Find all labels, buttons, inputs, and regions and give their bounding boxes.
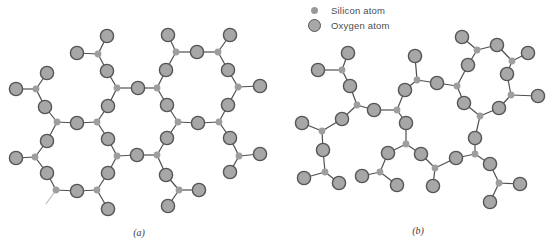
legend-item-silicon: Silicon atom: [306, 4, 390, 17]
oxygen-atom: [9, 82, 22, 95]
silicon-atom-swatch-icon: [311, 7, 318, 14]
oxygen-atom: [40, 166, 53, 179]
oxygen-atom: [490, 38, 503, 51]
oxygen-atom: [38, 100, 51, 113]
oxygen-atom: [159, 63, 172, 76]
caption-panel-b: (b): [412, 225, 424, 236]
silicon-atom: [176, 187, 183, 194]
oxygen-atom: [311, 63, 324, 76]
oxygen-atom: [223, 165, 236, 178]
silicon-atom: [474, 47, 481, 54]
silicon-atom: [54, 119, 61, 126]
silicon-atom: [394, 107, 401, 114]
oxygen-atom: [223, 28, 236, 41]
oxygen-atom: [449, 151, 462, 164]
oxygen-atom: [492, 101, 505, 114]
legend-label-silicon: Silicon atom: [331, 5, 385, 16]
silicon-atom: [432, 165, 439, 172]
oxygen-atom: [191, 116, 204, 129]
legend-item-oxygen: Oxygen atom: [306, 19, 390, 32]
oxygen-atom: [161, 199, 174, 212]
oxygen-atom: [221, 98, 234, 111]
oxygen-atom: [414, 147, 427, 160]
oxygen-atom: [316, 143, 329, 156]
oxygen-atom: [130, 148, 143, 161]
oxygen-atom: [398, 83, 411, 96]
silicon-atom: [94, 119, 101, 126]
oxygen-atom: [355, 169, 368, 182]
oxygen-atom: [100, 29, 113, 42]
silicon-atom: [339, 67, 346, 74]
legend: Silicon atom Oxygen atom: [306, 4, 390, 32]
silicon-atom: [377, 169, 384, 176]
oxygen-atom: [390, 178, 403, 191]
atomic-structure-canvas: [0, 0, 552, 246]
oxygen-atom: [500, 67, 513, 80]
oxygen-atom: [457, 96, 470, 109]
oxygen-atom: [297, 171, 310, 184]
oxygen-atom: [40, 134, 53, 147]
oxygen-atom: [483, 157, 496, 170]
oxygen-atom-swatch-icon: [308, 19, 321, 32]
silicon-atom: [322, 169, 329, 176]
oxygen-atom: [430, 76, 443, 89]
silicon-atom: [403, 141, 410, 148]
oxygen-atom: [223, 131, 236, 144]
oxygen-atom: [221, 63, 234, 76]
silicon-atom: [216, 119, 223, 126]
silicon-atom: [319, 128, 326, 135]
panel-a: [9, 28, 266, 215]
silicon-atom: [508, 92, 515, 99]
figure-sio2-structures: Silicon atom Oxygen atom (a) (b): [0, 0, 552, 246]
silicon-atom: [154, 85, 161, 92]
oxygen-atom: [9, 151, 22, 164]
oxygen-atom: [521, 46, 534, 59]
oxygen-atom: [190, 45, 203, 58]
silicon-atom: [477, 113, 484, 120]
oxygen-atom: [131, 81, 144, 94]
oxygen-atom: [468, 131, 481, 144]
caption-panel-a: (a): [133, 227, 145, 238]
oxygen-atom: [399, 116, 412, 129]
oxygen-atom: [40, 66, 53, 79]
silicon-atom: [154, 152, 161, 159]
oxygen-atom: [461, 58, 474, 71]
panel-b: [295, 30, 544, 208]
oxygen-atom: [161, 28, 174, 41]
silicon-atom: [175, 119, 182, 126]
oxygen-atom: [332, 176, 345, 189]
silicon-atom: [472, 151, 479, 158]
oxygen-atom: [381, 146, 394, 159]
silicon-atom: [33, 86, 40, 93]
oxygen-atom: [335, 112, 348, 125]
oxygen-atom: [101, 166, 114, 179]
silicon-atom: [414, 77, 421, 84]
silicon-atom: [173, 49, 180, 56]
oxygen-atom: [101, 99, 114, 112]
oxygen-atom: [455, 30, 468, 43]
oxygen-atom: [343, 79, 356, 92]
oxygen-atom: [253, 79, 266, 92]
oxygen-atom: [367, 103, 380, 116]
oxygen-atom: [100, 64, 113, 77]
silicon-atom: [32, 154, 39, 161]
oxygen-atom: [70, 184, 83, 197]
oxygen-atom: [101, 202, 114, 215]
silicon-atom: [235, 84, 242, 91]
oxygen-atom: [408, 49, 421, 62]
silicon-atom: [95, 51, 102, 58]
silicon-atom: [496, 180, 503, 187]
silicon-atom: [354, 102, 361, 109]
silicon-atom: [454, 83, 461, 90]
oxygen-atom: [483, 195, 496, 208]
oxygen-atom: [160, 98, 173, 111]
oxygen-atom: [192, 183, 205, 196]
legend-label-oxygen: Oxygen atom: [331, 20, 390, 31]
oxygen-atom: [513, 177, 526, 190]
oxygen-atom: [295, 116, 308, 129]
oxygen-atom: [253, 147, 266, 160]
silicon-atom: [236, 153, 243, 160]
oxygen-atom: [531, 89, 544, 102]
silicon-atom: [215, 49, 222, 56]
silicon-atom: [114, 153, 121, 160]
